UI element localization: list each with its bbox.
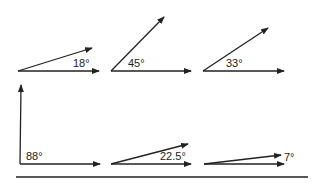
- angle-7: 7°: [204, 151, 295, 164]
- angle-label: 45°: [128, 57, 145, 69]
- angled-ray: [204, 155, 281, 164]
- angle-88: 88°: [20, 85, 100, 164]
- angle-label: 18°: [73, 57, 90, 69]
- angle-label: 33°: [226, 57, 243, 69]
- angle-22-5: 22.5°: [111, 144, 191, 164]
- angles-diagram: 18° 45° 33° 88° 22.5° 7°: [0, 0, 317, 183]
- angle-label: 88°: [26, 150, 43, 162]
- angle-label: 7°: [284, 151, 295, 163]
- angled-ray: [20, 85, 21, 164]
- angle-33: 33°: [203, 28, 284, 71]
- angle-45: 45°: [111, 17, 191, 71]
- angle-label: 22.5°: [160, 150, 186, 162]
- angle-18: 18°: [18, 48, 99, 71]
